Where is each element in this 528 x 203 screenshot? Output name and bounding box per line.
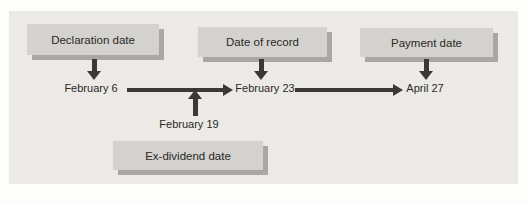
timeline-arrow-feb6-to-feb23-icon: [127, 82, 233, 97]
arrow-head: [419, 71, 433, 80]
timeline-arrow-feb23-to-apr27-icon: [295, 82, 403, 97]
date-february-19: February 19: [159, 118, 218, 130]
payment-date-box: Payment date: [360, 28, 493, 57]
date-february-23: February 23: [235, 82, 294, 94]
date-february-6: February 6: [64, 82, 117, 94]
arrow-up-ex-dividend-icon: [187, 90, 203, 116]
arrow-head: [87, 71, 101, 80]
arrow-head: [223, 84, 233, 96]
arrow-head: [393, 84, 403, 96]
figure-canvas: Declaration date Date of record Payment …: [0, 0, 528, 203]
arrow-head: [188, 90, 202, 99]
ex-dividend-date-box-label: Ex-dividend date: [145, 150, 231, 162]
arrow-down-record-icon: [253, 59, 269, 80]
arrow-shaft: [295, 88, 393, 92]
date-of-record-box-label: Date of record: [226, 36, 299, 48]
declaration-date-box: Declaration date: [27, 24, 159, 55]
arrow-shaft: [92, 59, 97, 71]
dividend-timeline-panel: Declaration date Date of record Payment …: [9, 11, 518, 184]
ex-dividend-date-box: Ex-dividend date: [113, 141, 263, 170]
arrow-down-declaration-icon: [86, 59, 102, 80]
declaration-date-box-label: Declaration date: [51, 34, 135, 46]
arrow-down-payment-icon: [418, 59, 434, 80]
arrow-head: [254, 71, 268, 80]
arrow-shaft: [424, 59, 429, 71]
arrow-shaft: [193, 99, 198, 116]
date-april-27: April 27: [406, 82, 443, 94]
date-of-record-box: Date of record: [198, 27, 327, 57]
arrow-shaft: [259, 59, 264, 71]
arrow-shaft: [127, 88, 223, 92]
payment-date-box-label: Payment date: [391, 37, 462, 49]
